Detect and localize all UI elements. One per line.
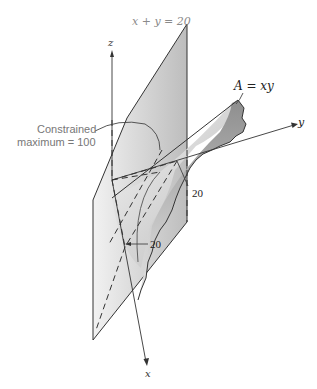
surface-label: A = xy: [234, 80, 274, 92]
y-axis-label: y: [298, 117, 304, 128]
constrained-maximum-label-line1: Constrained: [37, 124, 96, 135]
constraint-plane-label: x + y = 20: [132, 16, 191, 27]
z-axis-label: z: [108, 38, 113, 48]
constrained-optimization-diagram: x + y = 20 z A = xy y Constrained maximu…: [0, 0, 317, 389]
x-axis-arrow-icon: [144, 358, 150, 366]
constrained-maximum-label-line2: maximum = 100: [17, 137, 96, 148]
x-axis-label: x: [145, 369, 151, 379]
x-intercept-label: 20: [150, 239, 161, 250]
y-intercept-label: 20: [192, 188, 203, 199]
y-axis-arrow-icon: [291, 123, 298, 129]
diagram-canvas: [0, 0, 317, 389]
z-axis-arrow-icon: [110, 50, 114, 57]
